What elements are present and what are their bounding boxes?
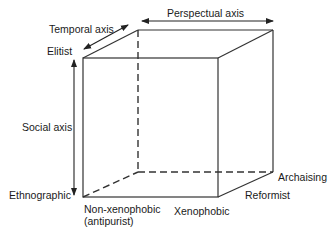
social-axis-label: Social axis (22, 121, 72, 133)
hidden-edges (83, 30, 273, 197)
ethnographic-label: Ethnographic (9, 189, 71, 201)
elitist-label: Elitist (47, 45, 72, 57)
non-xenophobic-label: Non-xenophobic (84, 203, 160, 215)
reformist-label: Reformist (245, 189, 290, 201)
archaising-label: Archaising (278, 171, 327, 183)
antipurist-label: (antipurist) (84, 215, 134, 227)
cube-diagram: Temporal axis Perspectual axis Elitist S… (0, 0, 334, 233)
temporal-axis-label: Temporal axis (49, 23, 114, 35)
perspectual-axis-label: Perspectual axis (167, 7, 244, 19)
xenophobic-label: Xenophobic (174, 205, 229, 217)
